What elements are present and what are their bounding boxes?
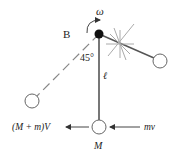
incoming-momentum-label: mv: [144, 122, 156, 132]
omega-label: ω: [96, 5, 104, 17]
pivot-point: [95, 30, 104, 39]
final-momentum-label: (M + m)V: [12, 122, 51, 133]
impact-starburst-icon: [106, 24, 134, 60]
pendulum-mass: [92, 120, 106, 134]
length-label: ℓ: [103, 70, 107, 81]
swung-position-mass: [25, 94, 39, 108]
incoming-rod: [99, 34, 154, 58]
incoming-mass: [153, 54, 167, 68]
pivot-label: B: [63, 28, 70, 40]
swung-position-dashed-rod: [37, 34, 99, 96]
mass-label: M: [93, 140, 103, 151]
pendulum-collision-diagram: ω B 45° ℓ M (M + m)V mv: [0, 0, 178, 157]
angle-label: 45°: [80, 52, 94, 63]
